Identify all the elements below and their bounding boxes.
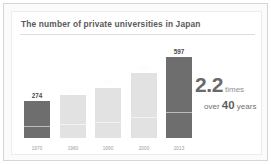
callout-over-label: over: [204, 102, 220, 111]
bar-rect[interactable]: [95, 88, 121, 138]
chart-panel: The number of private universities in Ja…: [11, 11, 262, 155]
bar-value-label: 597: [174, 49, 185, 55]
bar-seam: [95, 122, 121, 123]
x-axis-tick-label: 1980: [57, 146, 89, 151]
bar-seam: [60, 124, 86, 125]
x-axis-tick-label: 2000: [128, 146, 160, 151]
callout-times-label: times: [225, 85, 244, 94]
bar-group-1970[interactable]: 2741970: [24, 40, 50, 138]
bar-value-label: 478: [139, 65, 150, 71]
page-title: The number of private universities in Ja…: [21, 19, 201, 29]
callout-multiplier-value: 2.2: [195, 73, 223, 96]
bar-group-2013[interactable]: 5972013: [166, 40, 192, 138]
bar-rect[interactable]: [131, 73, 157, 138]
bar-chart-plot-area: 27419703191980372199047820005972013: [24, 40, 192, 152]
callout-years-label: years: [237, 102, 257, 111]
bar-value-label: 274: [32, 93, 43, 99]
x-axis-tick-label: 1990: [92, 146, 124, 151]
bar-value-label: 319: [68, 87, 79, 93]
bar-group-1990[interactable]: 3721990: [95, 40, 121, 138]
x-axis-tick-label: 1970: [21, 146, 53, 151]
callout-primary-line: 2.2times: [195, 74, 271, 95]
bar-seam: [24, 126, 50, 127]
chart-outer-frame: The number of private universities in Ja…: [3, 3, 268, 161]
bar-group-2000[interactable]: 4782000: [131, 40, 157, 138]
callout-secondary-line: over 40 years: [204, 100, 271, 112]
bar-rect[interactable]: [60, 95, 86, 138]
bar-seam: [131, 117, 157, 118]
bar-rect[interactable]: [166, 57, 192, 138]
bar-rect[interactable]: [24, 101, 50, 138]
bar-group-1980[interactable]: 3191980: [60, 40, 86, 138]
x-axis-tick-label: 2013: [163, 146, 195, 151]
callout-years-number: 40: [222, 99, 235, 111]
bar-value-label: 372: [103, 80, 114, 86]
title-divider: [20, 34, 255, 35]
bar-seam: [166, 112, 192, 113]
callout-annotation: 2.2times over 40 years: [195, 74, 271, 112]
